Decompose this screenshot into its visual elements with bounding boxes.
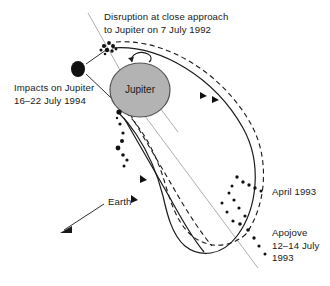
jupiter-disk-label: Jupiter bbox=[125, 84, 156, 95]
impacts-line-2: 16–22 July 1994 bbox=[14, 95, 86, 106]
disruption-line-2: to Jupiter on 7 July 1992 bbox=[104, 24, 211, 35]
apojove-line-1: Apojove bbox=[272, 227, 307, 238]
impact-point-marker bbox=[116, 109, 122, 125]
solid-orbit-descending-branch bbox=[124, 118, 204, 252]
orbit-axis-line bbox=[133, 100, 258, 268]
dashed-orbit-return-path bbox=[119, 107, 246, 245]
earth-direction-arrow bbox=[60, 204, 104, 233]
earth-annotation: Earth bbox=[108, 196, 131, 209]
disruption-line-1: Disruption at close approach bbox=[104, 11, 228, 22]
solid-orbit-return-path bbox=[118, 112, 163, 196]
comet-leader-line bbox=[86, 50, 106, 64]
april-line-1: April 1993 bbox=[272, 186, 316, 197]
apojove-annotation: Apojove12–14 July1993 bbox=[272, 227, 319, 265]
apojove-line-3: 1993 bbox=[272, 252, 294, 263]
jupiter-rotation-arrow bbox=[128, 52, 151, 62]
disruption-annotation: Disruption at close approachto Jupiter o… bbox=[104, 11, 228, 36]
april-annotation: April 1993 bbox=[272, 186, 316, 199]
impacts-annotation: Impacts on Jupiter16–22 July 1994 bbox=[14, 82, 94, 107]
impacts-line-1: Impacts on Jupiter bbox=[14, 82, 94, 93]
fragment-train-dots-right bbox=[221, 175, 267, 255]
orbit-direction-arrowheads-right bbox=[200, 92, 219, 103]
fragment-train-dots-left bbox=[116, 131, 129, 167]
orbit-diagram-figure: Jupiter bbox=[0, 0, 330, 286]
apojove-line-2: 12–14 July bbox=[272, 240, 319, 251]
comet-nucleus-dot bbox=[71, 61, 85, 77]
earth-line-1: Earth bbox=[108, 196, 131, 207]
orbit-direction-arrowheads-left bbox=[131, 175, 147, 203]
jupiter-edge-leader-line bbox=[160, 108, 178, 132]
